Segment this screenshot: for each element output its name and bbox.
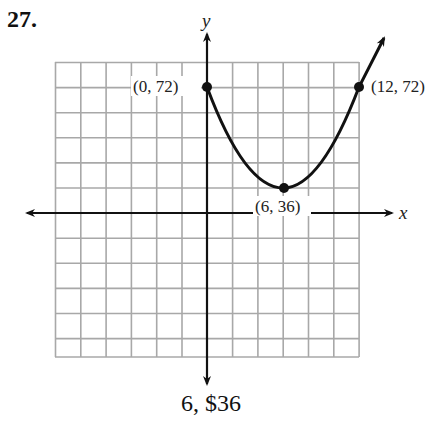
point-0-72: [202, 82, 212, 92]
point-6-36: [279, 183, 289, 193]
point-label-0-72: (0, 72): [133, 77, 178, 96]
graph: x y (0, 72) (6, 36) (12, 72): [0, 0, 438, 435]
point-label-6-36: (6, 36): [255, 197, 300, 216]
x-axis-label: x: [398, 202, 408, 223]
point-12-72: [354, 82, 364, 92]
y-axis-label: y: [200, 10, 211, 31]
answer-value: 6, $36: [181, 390, 241, 416]
answer-text: 6, $36: [0, 390, 438, 417]
point-label-12-72: (12, 72): [371, 77, 425, 96]
